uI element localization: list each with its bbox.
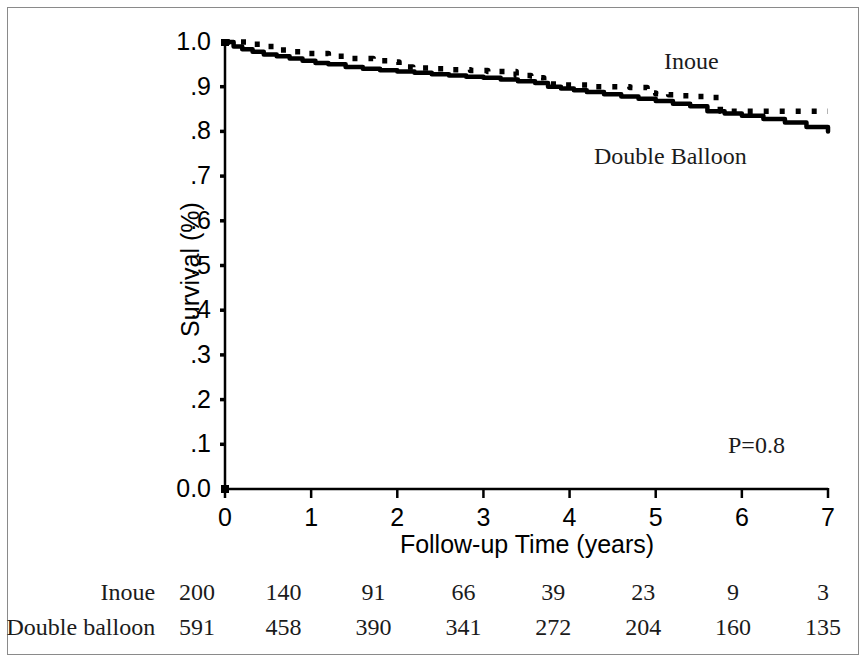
- risk-row-label: Inoue: [0, 575, 155, 610]
- y-axis-title: Survival (%): [176, 200, 205, 340]
- risk-value: 3: [778, 575, 868, 610]
- series-label-double-balloon: Double Balloon: [594, 143, 747, 170]
- risk-value: 9: [688, 575, 778, 610]
- p-value-annotation: P=0.8: [728, 432, 785, 459]
- survival-chart-figure: 1.0.9.8.7.6.5.4.3.2.10.0 01234567 Surviv…: [0, 0, 868, 666]
- y-tick-label: .1: [119, 431, 211, 456]
- risk-value: 200: [155, 575, 238, 610]
- risk-value: 160: [688, 610, 778, 645]
- y-tick-label: .9: [119, 74, 211, 99]
- risk-table-row: Double balloon591458390341272204160135: [0, 610, 868, 645]
- y-tick-label: .3: [119, 342, 211, 367]
- risk-value: 135: [778, 610, 868, 645]
- risk-value: 272: [508, 610, 598, 645]
- data-series: [225, 42, 828, 131]
- risk-value: 390: [329, 610, 419, 645]
- x-tick-label: 6: [717, 505, 767, 530]
- x-tick-label: 0: [200, 505, 250, 530]
- x-tick-label: 1: [286, 505, 336, 530]
- y-tick-label: .2: [119, 387, 211, 412]
- risk-value: 66: [418, 575, 508, 610]
- x-tick-label: 5: [631, 505, 681, 530]
- risk-value: 591: [155, 610, 238, 645]
- x-axis-title: Follow-up Time (years): [225, 530, 829, 559]
- x-tick-label: 4: [545, 505, 595, 530]
- x-tick-label: 7: [803, 505, 853, 530]
- y-tick-label: .7: [119, 163, 211, 188]
- series-label-inoue: Inoue: [664, 48, 719, 75]
- risk-value: 39: [508, 575, 598, 610]
- series-line-double-balloon: [225, 42, 828, 131]
- risk-value: 458: [239, 610, 329, 645]
- y-tick-label: 1.0: [119, 29, 211, 54]
- risk-value: 341: [418, 610, 508, 645]
- risk-value: 23: [598, 575, 688, 610]
- risk-value: 140: [239, 575, 329, 610]
- plot-area: 1.0.9.8.7.6.5.4.3.2.10.0 01234567 Surviv…: [0, 0, 868, 560]
- x-tick-label: 2: [372, 505, 422, 530]
- y-tick-label: .8: [119, 118, 211, 143]
- numbers-at-risk-table: Inoue2001409166392393Double balloon59145…: [0, 575, 868, 644]
- risk-value: 91: [329, 575, 419, 610]
- axes: [220, 39, 828, 498]
- risk-row-label: Double balloon: [0, 610, 155, 645]
- x-tick-label: 3: [458, 505, 508, 530]
- series-line-inoue: [225, 42, 828, 111]
- risk-value: 204: [598, 610, 688, 645]
- risk-table-row: Inoue2001409166392393: [0, 575, 868, 610]
- y-tick-label: 0.0: [119, 476, 211, 501]
